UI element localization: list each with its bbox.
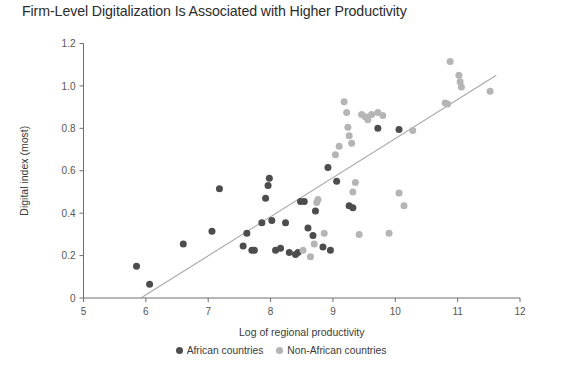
axes-group bbox=[80, 44, 521, 303]
trendline bbox=[141, 75, 496, 298]
data-point bbox=[409, 127, 416, 134]
axis-labels-group: 00.20.40.60.81.01.256789101112Log of reg… bbox=[18, 38, 526, 338]
legend-label-non-african: Non-African countries bbox=[287, 345, 386, 356]
data-point bbox=[333, 178, 340, 185]
x-tick-label: 6 bbox=[143, 306, 149, 317]
legend-item-african[interactable]: African countries bbox=[176, 345, 264, 356]
x-tick-label: 12 bbox=[514, 306, 526, 317]
y-tick-label: 1.0 bbox=[62, 81, 76, 92]
data-point bbox=[344, 124, 351, 131]
x-tick-label: 8 bbox=[268, 306, 274, 317]
y-tick-label: 0 bbox=[70, 293, 76, 304]
data-point bbox=[396, 190, 403, 197]
data-point bbox=[268, 217, 275, 224]
data-point bbox=[304, 225, 311, 232]
data-point bbox=[343, 109, 350, 116]
data-point bbox=[312, 208, 319, 215]
data-point bbox=[374, 125, 381, 132]
data-point bbox=[314, 196, 321, 203]
data-point bbox=[146, 281, 153, 288]
data-point bbox=[386, 230, 393, 237]
chart-figure: Firm-Level Digitalization Is Associated … bbox=[0, 0, 562, 371]
data-point bbox=[379, 112, 386, 119]
data-point bbox=[349, 204, 356, 211]
data-point bbox=[262, 195, 269, 202]
data-point bbox=[349, 188, 356, 195]
x-tick-label: 10 bbox=[390, 306, 402, 317]
legend-dot-non-african bbox=[276, 347, 283, 354]
data-point bbox=[266, 175, 273, 182]
data-point bbox=[319, 244, 326, 251]
data-point bbox=[251, 247, 258, 254]
legend-dot-african bbox=[176, 347, 183, 354]
data-point bbox=[458, 83, 465, 90]
y-tick-label: 0.4 bbox=[62, 208, 76, 219]
data-point bbox=[487, 88, 494, 95]
data-point bbox=[455, 72, 462, 79]
legend-label-african: African countries bbox=[187, 345, 264, 356]
data-point bbox=[265, 182, 272, 189]
scatter-plot: 00.20.40.60.81.01.256789101112Log of reg… bbox=[0, 0, 562, 371]
data-point bbox=[282, 219, 289, 226]
data-point bbox=[356, 231, 363, 238]
data-point bbox=[324, 164, 331, 171]
data-point bbox=[299, 247, 306, 254]
data-point bbox=[301, 198, 308, 205]
y-axis-label: Digital index (most) bbox=[18, 126, 30, 216]
data-point bbox=[327, 247, 334, 254]
y-tick-label: 0.6 bbox=[62, 165, 76, 176]
data-point bbox=[307, 253, 314, 260]
data-point bbox=[447, 58, 454, 65]
chart-legend: African countries Non-African countries bbox=[0, 345, 562, 356]
x-tick-label: 11 bbox=[452, 306, 463, 317]
data-point bbox=[309, 232, 316, 239]
data-point bbox=[346, 132, 353, 139]
data-point bbox=[336, 143, 343, 150]
data-point bbox=[258, 219, 265, 226]
data-point bbox=[332, 151, 339, 158]
data-point bbox=[286, 249, 293, 256]
y-tick-label: 0.8 bbox=[62, 123, 76, 134]
data-point bbox=[321, 230, 328, 237]
x-axis-label: Log of regional productivity bbox=[239, 326, 365, 338]
data-point bbox=[208, 228, 215, 235]
y-tick-label: 0.2 bbox=[62, 250, 76, 261]
data-point bbox=[352, 179, 359, 186]
data-point bbox=[348, 140, 355, 147]
legend-item-non-african[interactable]: Non-African countries bbox=[276, 345, 386, 356]
data-point bbox=[243, 230, 250, 237]
data-point bbox=[240, 243, 247, 250]
data-point bbox=[444, 100, 451, 107]
x-tick-label: 7 bbox=[205, 306, 211, 317]
data-point bbox=[396, 126, 403, 133]
x-tick-label: 5 bbox=[81, 306, 87, 317]
data-point bbox=[341, 98, 348, 105]
data-point bbox=[133, 263, 140, 270]
data-point bbox=[216, 185, 223, 192]
x-tick-label: 9 bbox=[330, 306, 336, 317]
data-points-group bbox=[133, 58, 494, 288]
data-point bbox=[401, 202, 408, 209]
data-point bbox=[277, 245, 284, 252]
data-point bbox=[311, 240, 318, 247]
data-point bbox=[180, 240, 187, 247]
y-tick-label: 1.2 bbox=[62, 38, 76, 49]
data-point bbox=[368, 111, 375, 118]
